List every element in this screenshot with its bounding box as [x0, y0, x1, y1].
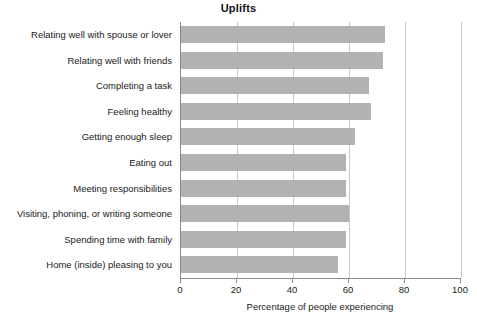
bar — [181, 180, 346, 197]
category-label: Meeting responsibilities — [0, 176, 176, 202]
category-label: Spending time with family — [0, 227, 176, 253]
bar-row — [181, 201, 461, 227]
bar-row — [181, 227, 461, 253]
bar — [181, 103, 371, 120]
bar-row — [181, 99, 461, 125]
chart-title: Uplifts — [0, 2, 477, 14]
x-tick-mark — [348, 279, 349, 283]
category-label: Home (inside) pleasing to you — [0, 252, 176, 278]
x-tick-label: 40 — [277, 284, 307, 295]
bar — [181, 231, 346, 248]
bar-row — [181, 176, 461, 202]
x-tick-mark — [180, 279, 181, 283]
bar-row — [181, 73, 461, 99]
category-label: Relating well with friends — [0, 48, 176, 74]
category-label: Relating well with spouse or lover — [0, 22, 176, 48]
bar-row — [181, 22, 461, 48]
category-label: Completing a task — [0, 73, 176, 99]
gridline-100 — [461, 22, 462, 278]
bar — [181, 154, 346, 171]
x-tick-mark — [404, 279, 405, 283]
x-axis-title: Percentage of people experiencing — [180, 301, 460, 312]
category-label: Feeling healthy — [0, 99, 176, 125]
bar — [181, 77, 369, 94]
plot-area — [180, 22, 461, 279]
bar-row — [181, 252, 461, 278]
bar — [181, 128, 355, 145]
category-label: Getting enough sleep — [0, 124, 176, 150]
x-tick-label: 100 — [445, 284, 475, 295]
category-labels: Relating well with spouse or loverRelati… — [0, 22, 176, 278]
x-tick-mark — [236, 279, 237, 283]
bar — [181, 26, 385, 43]
x-tick-label: 0 — [165, 284, 195, 295]
bar — [181, 52, 383, 69]
bar-row — [181, 124, 461, 150]
bar-row — [181, 48, 461, 74]
bar — [181, 205, 349, 222]
bar-row — [181, 150, 461, 176]
x-tick-mark — [460, 279, 461, 283]
bars-layer — [181, 22, 461, 278]
x-tick-label: 60 — [333, 284, 363, 295]
x-tick-label: 80 — [389, 284, 419, 295]
bar-chart: Uplifts Relating well with spouse or lov… — [0, 0, 477, 320]
category-label: Visiting, phoning, or writing someone — [0, 201, 176, 227]
category-label: Eating out — [0, 150, 176, 176]
x-tick-mark — [292, 279, 293, 283]
x-tick-label: 20 — [221, 284, 251, 295]
bar — [181, 256, 338, 273]
